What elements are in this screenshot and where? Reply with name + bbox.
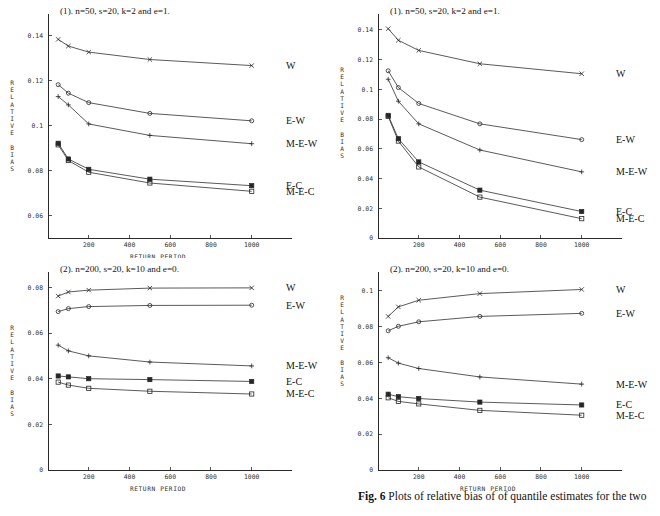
marker-circle [56, 83, 60, 87]
y-axis-title-letter: R [10, 79, 14, 86]
series-M-E-W[interactable]: M-E-W [386, 77, 648, 177]
chart-svg-panel-br: 200400600800100000.020.040.060.080.1RELA… [330, 258, 660, 516]
marker-plus [86, 353, 91, 358]
series-M-E-C[interactable]: M-E-C [386, 396, 645, 421]
marker-plus [249, 364, 254, 369]
series-E-W[interactable]: E-W [56, 83, 305, 127]
x-tick-label: 200 [413, 473, 425, 481]
series-E-C[interactable]: E-C [386, 113, 632, 217]
y-axis-title-letter: R [340, 66, 344, 73]
y-axis-title-letter: E [340, 344, 344, 351]
series-label-M-E-W: M-E-W [616, 166, 648, 177]
y-axis-title-letter: T [10, 353, 14, 360]
marker-filled-square [417, 160, 421, 164]
series-M-E-C[interactable]: M-E-C [56, 143, 315, 197]
chart-panel-top-left: 20040060080010000.060.080.10.120.14RELAT… [0, 0, 330, 258]
series-E-C[interactable]: E-C [386, 392, 632, 410]
y-axis-title-letter: I [10, 396, 14, 403]
series-label-W: W [616, 284, 626, 295]
y-axis-title-letter: E [340, 116, 344, 123]
y-axis-title-letter: A [340, 373, 344, 380]
marker-plus [56, 343, 61, 348]
y-tick-label: 0.12 [358, 56, 374, 64]
chart-panel-top-right: 200400600800100000.020.040.060.080.10.12… [330, 0, 660, 258]
series-label-E-C: E-C [286, 376, 302, 387]
y-tick-label: 0.02 [358, 430, 374, 438]
y-axis-title-letter: E [340, 73, 344, 80]
marker-circle [386, 69, 390, 73]
y-axis-title-letter: A [10, 346, 14, 353]
y-axis-title-letter: T [10, 108, 14, 115]
series-line-W [58, 39, 252, 65]
y-axis-title-letter: I [10, 360, 14, 367]
series-line-E-W [58, 85, 252, 121]
y-axis-title-letter: A [340, 316, 344, 323]
series-M-E-W[interactable]: M-E-W [386, 355, 648, 389]
series-M-E-C[interactable]: M-E-C [386, 114, 645, 224]
series-M-E-C[interactable]: M-E-C [56, 380, 315, 399]
series-line-M-E-W [388, 79, 582, 172]
marker-plus [66, 348, 71, 353]
series-line-E-C [58, 143, 252, 185]
y-tick-label: 0 [369, 234, 373, 242]
series-E-C[interactable]: E-C [56, 141, 302, 191]
figure-root: 20040060080010000.060.080.10.120.14RELAT… [0, 0, 660, 516]
series-line-M-E-C [58, 382, 252, 394]
marker-filled-square [478, 188, 482, 192]
y-axis-title-letter: A [10, 158, 14, 165]
series-W[interactable]: W [56, 37, 296, 71]
x-tick-label: 1000 [574, 241, 590, 249]
series-label-M-E-C: M-E-C [616, 410, 645, 421]
y-axis-title-letter: L [340, 80, 344, 87]
marker-plus [386, 355, 391, 360]
y-axis-title-letter: S [10, 410, 14, 417]
series-W[interactable]: W [386, 27, 626, 80]
series-E-C[interactable]: E-C [56, 374, 302, 387]
series-E-W[interactable]: E-W [386, 69, 635, 145]
x-tick-label: 1000 [244, 241, 260, 249]
y-axis-title-letter: S [340, 380, 344, 387]
y-axis-title-letter: I [340, 330, 344, 337]
marker-cross [386, 314, 390, 318]
marker-cross [386, 27, 390, 31]
x-tick-label: 800 [535, 241, 547, 249]
marker-filled-square [66, 375, 70, 379]
series-label-E-W: E-W [286, 300, 305, 311]
marker-filled-square [580, 209, 584, 213]
y-tick-label: 0.1 [31, 122, 43, 130]
y-tick-label: 0.06 [358, 359, 374, 367]
y-tick-label: 0.1 [361, 86, 373, 94]
y-axis-title-letter: E [10, 129, 14, 136]
y-tick-label: 0.02 [358, 205, 374, 213]
marker-cross [396, 305, 400, 309]
y-axis-title-letter: E [340, 301, 344, 308]
y-tick-label: 0.1 [361, 287, 373, 295]
y-axis-title-letter: I [10, 151, 14, 158]
panel-title: (1). n=50, s=20, k=2 and e=1. [390, 6, 500, 16]
x-tick-label: 800 [205, 473, 217, 481]
x-tick-label: 600 [494, 241, 506, 249]
series-W[interactable]: W [56, 282, 296, 298]
y-axis-title-letter: L [340, 308, 344, 315]
x-tick-label: 600 [494, 473, 506, 481]
marker-plus [249, 141, 254, 146]
series-M-E-W[interactable]: M-E-W [56, 343, 318, 372]
series-E-W[interactable]: E-W [386, 308, 635, 333]
series-M-E-W[interactable]: M-E-W [56, 94, 318, 149]
y-axis-title-letter: A [340, 145, 344, 152]
marker-plus [396, 361, 401, 366]
y-tick-label: 0.04 [28, 375, 44, 383]
marker-filled-square [417, 396, 421, 400]
series-W[interactable]: W [386, 284, 626, 319]
figure-caption: Fig. 6 Plots of relative bias of of quan… [358, 489, 658, 503]
y-axis-title-letter: V [10, 122, 14, 129]
series-E-W[interactable]: E-W [56, 300, 305, 314]
marker-plus [477, 375, 482, 380]
series-label-M-E-C: M-E-C [286, 186, 315, 197]
y-tick-label: 0.14 [358, 26, 374, 34]
y-tick-label: 0.06 [358, 145, 374, 153]
series-label-W: W [286, 60, 296, 71]
y-axis-title-letter: R [340, 294, 344, 301]
x-tick-label: 200 [83, 241, 95, 249]
series-label-M-E-W: M-E-W [616, 379, 648, 390]
